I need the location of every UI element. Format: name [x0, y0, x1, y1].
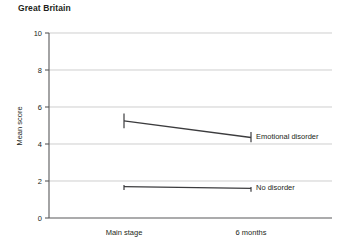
- y-tick-label-4: 4: [38, 140, 42, 149]
- y-tick-label-6: 6: [38, 103, 42, 112]
- y-tick-label-2: 2: [38, 177, 42, 186]
- y-tick-label-10: 10: [34, 29, 42, 38]
- series-no-disorder: [124, 185, 251, 192]
- y-axis-title: Mean score: [15, 106, 24, 145]
- series-label-no-disorder: No disorder: [256, 183, 295, 192]
- series-line-emotional-disorder: [124, 121, 251, 138]
- series-line-no-disorder: [124, 187, 251, 189]
- x-tick-label-main-stage: Main stage: [106, 228, 143, 237]
- series-label-emotional-disorder: Emotional disorder: [256, 132, 319, 141]
- y-tick-marks: [45, 33, 49, 218]
- y-tick-label-8: 8: [38, 66, 42, 75]
- series-emotional-disorder: [124, 114, 251, 143]
- x-tick-label-6-months: 6 months: [236, 228, 267, 237]
- chart-plot: 10 8 6 4 2 0 Mean score Main stage 6 mon…: [0, 0, 346, 248]
- gridlines: [49, 33, 332, 181]
- y-tick-label-0: 0: [38, 214, 42, 223]
- chart-container: Great Britain 10 8 6 4 2 0 Mean: [0, 0, 346, 248]
